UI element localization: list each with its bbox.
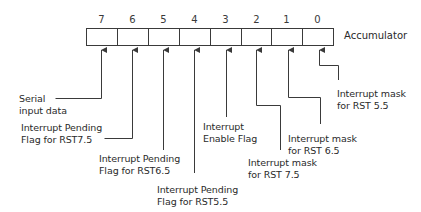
bit-cell-0 bbox=[303, 29, 334, 46]
bit-cell-5 bbox=[149, 29, 180, 46]
register-title: Accumulator bbox=[344, 30, 407, 42]
label-bit-5: Interrupt Pending Flag for RST6.5 bbox=[99, 153, 180, 177]
bit-number-4: 4 bbox=[179, 14, 210, 26]
bit-cell-7 bbox=[87, 29, 118, 46]
label-bit-0: Interrupt mask for RST 5.5 bbox=[337, 88, 406, 112]
label-bit-6: Interrupt Pending Flag for RST7.5 bbox=[21, 122, 102, 146]
label-line: Interrupt mask bbox=[288, 133, 357, 145]
label-line: Serial bbox=[19, 93, 67, 105]
label-line: Interrupt bbox=[203, 121, 257, 133]
label-line: Flag for RST6.5 bbox=[99, 165, 180, 177]
label-line: Interrupt mask bbox=[337, 88, 406, 100]
bit-cell-4 bbox=[180, 29, 211, 46]
label-line: Enable Flag bbox=[203, 133, 257, 145]
label-line: Interrupt Pending bbox=[21, 122, 102, 134]
leader-bit-7 bbox=[56, 50, 102, 99]
label-line: for RST 5.5 bbox=[337, 100, 406, 112]
register-box bbox=[87, 29, 334, 46]
label-line: Flag for RST5.5 bbox=[157, 196, 238, 208]
label-bit-4: Interrupt Pending Flag for RST5.5 bbox=[157, 184, 238, 208]
bit-number-3: 3 bbox=[210, 14, 241, 26]
label-line: Interrupt mask bbox=[248, 157, 317, 169]
leader-bit-0 bbox=[320, 50, 339, 80]
leader-bit-6 bbox=[105, 50, 133, 139]
leader-bit-2 bbox=[257, 50, 281, 150]
label-bit-2: Interrupt mask for RST 7.5 bbox=[248, 157, 317, 181]
label-line: Flag for RST7.5 bbox=[21, 134, 102, 146]
bit-number-2: 2 bbox=[241, 14, 272, 26]
bit-number-6: 6 bbox=[117, 14, 148, 26]
bit-number-1: 1 bbox=[271, 14, 302, 26]
bit-cell-3 bbox=[211, 29, 242, 46]
label-bit-1: Interrupt mask for RST 6.5 bbox=[288, 133, 357, 157]
bit-number-0: 0 bbox=[302, 14, 333, 26]
label-bit-7: Serial input data bbox=[19, 93, 67, 117]
label-line: input data bbox=[19, 105, 67, 117]
leader-bit-1 bbox=[289, 50, 321, 124]
bit-cell-1 bbox=[272, 29, 303, 46]
bit-number-5: 5 bbox=[148, 14, 179, 26]
label-line: for RST 6.5 bbox=[288, 145, 357, 157]
label-line: for RST 7.5 bbox=[248, 169, 317, 181]
bit-cell-6 bbox=[118, 29, 149, 46]
bit-number-7: 7 bbox=[86, 14, 117, 26]
label-line: Interrupt Pending bbox=[157, 184, 238, 196]
bit-cell-2 bbox=[242, 29, 272, 46]
label-bit-3: Interrupt Enable Flag bbox=[203, 121, 257, 145]
label-line: Interrupt Pending bbox=[99, 153, 180, 165]
